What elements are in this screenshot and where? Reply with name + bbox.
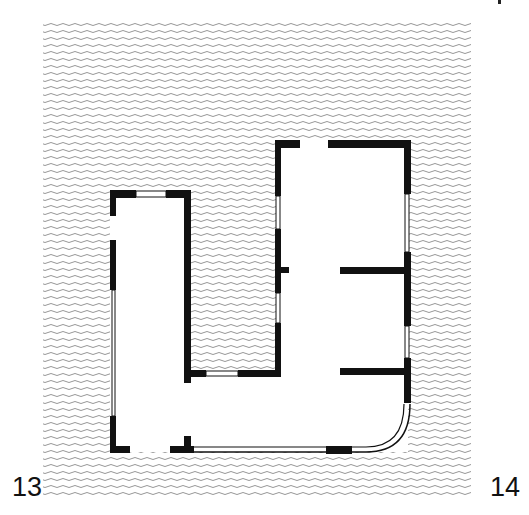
figure-label-right: 14 bbox=[490, 474, 520, 501]
figure-label-left: 13 bbox=[12, 474, 42, 501]
floor-plan bbox=[0, 0, 529, 515]
